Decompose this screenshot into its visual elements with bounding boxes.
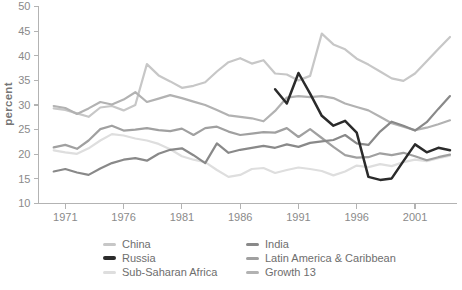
legend-label-india: India [265,237,289,251]
y-axis-title: percent [2,82,14,126]
x-tick-label: 1981 [170,211,194,223]
chart-canvas: percent 10152025303540455019711976198119… [0,0,462,232]
series-line-india [54,96,450,175]
series-line-latin-america-caribbean [54,126,450,161]
legend-swatch-china [103,243,116,246]
series-line-growth-13 [54,92,450,130]
legend-swatch-latin-america-caribbean [246,257,259,260]
legend-column-1: ChinaRussiaSub-Saharan Africa [103,237,246,279]
series-line-russia [275,73,450,180]
investment-rate-line-chart-figure: percent 10152025303540455019711976198119… [0,0,462,290]
legend-label-latin-america-caribbean: Latin America & Caribbean [265,251,396,265]
y-tick-label: 20 [18,148,30,160]
y-tick-label: 30 [18,99,30,111]
legend-label-growth-13: Growth 13 [265,265,316,279]
legend-item-india: India [246,237,396,251]
legend-item-china: China [103,237,246,251]
y-tick-label: 45 [18,25,30,37]
x-tick-label: 1976 [111,211,135,223]
y-tick-label: 35 [18,74,30,86]
y-tick-label: 10 [18,197,30,209]
y-tick-label: 15 [18,173,30,185]
legend-swatch-india [246,243,259,246]
y-tick-label: 50 [18,0,30,12]
y-tick-label: 40 [18,50,30,62]
legend-item-russia: Russia [103,251,246,265]
x-tick-label: 1996 [345,211,369,223]
legend-swatch-growth-13 [246,271,259,274]
legend-item-growth-13: Growth 13 [246,265,396,279]
data-series [54,34,450,180]
legend-swatch-russia [103,256,116,260]
legend-label-russia: Russia [122,251,156,265]
x-tick-label: 1986 [228,211,252,223]
legend: ChinaRussiaSub-Saharan AfricaIndiaLatin … [103,237,396,279]
y-tick-label: 25 [18,123,30,135]
x-tick-label: 1971 [53,211,77,223]
legend-column-2: IndiaLatin America & CaribbeanGrowth 13 [246,237,396,279]
legend-swatch-sub-saharan-africa [103,271,116,274]
x-tick-label: 1991 [286,211,310,223]
legend-item-sub-saharan-africa: Sub-Saharan Africa [103,265,246,279]
legend-item-latin-america-caribbean: Latin America & Caribbean [246,251,396,265]
x-tick-label: 2001 [403,211,427,223]
legend-label-sub-saharan-africa: Sub-Saharan Africa [122,265,217,279]
legend-label-china: China [122,237,151,251]
